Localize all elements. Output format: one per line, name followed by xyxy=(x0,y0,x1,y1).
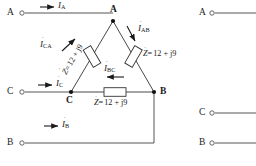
impedance-equals-ab: = xyxy=(148,49,153,58)
current-label-iab: I˙AB xyxy=(138,24,150,33)
terminal-dot-right-a xyxy=(210,11,214,15)
current-subscript-ia: A xyxy=(61,3,65,10)
node-dot-a xyxy=(111,19,115,23)
current-label-ic: I˙C xyxy=(56,79,63,88)
node-dot-b xyxy=(152,90,156,94)
impedance-label-ab: Z˙=12 + j9 xyxy=(143,50,176,58)
overdot-ic: ˙ xyxy=(58,75,60,82)
impedance-value-bc: 12 + j9 xyxy=(104,98,127,107)
current-label-ibc: I˙BC xyxy=(104,64,115,73)
terminal-label-left-c: C xyxy=(7,87,13,97)
terminal-label-right-a: A xyxy=(199,8,206,18)
terminal-dot-right-c xyxy=(210,111,214,115)
overdot-iab: ˙ xyxy=(140,20,142,27)
terminal-dot-left-c xyxy=(20,90,24,94)
terminal-label-left-b: B xyxy=(7,138,13,148)
circuit-schematic-svg xyxy=(0,0,256,166)
impedance-label-bc: Z˙=12 + j9 xyxy=(94,99,127,107)
right-lead-wires xyxy=(215,13,256,143)
impedance-equals-bc: = xyxy=(99,98,104,107)
impedance-box-bc xyxy=(104,88,126,97)
current-label-ib: I˙B xyxy=(62,120,69,129)
terminal-label-left-a: A xyxy=(7,8,14,18)
terminal-dot-right-b xyxy=(210,141,214,145)
impedance-value-ab: 12 + j9 xyxy=(153,49,176,58)
right-terminal-dots xyxy=(210,11,214,145)
node-label-a: A xyxy=(110,5,117,15)
node-label-c: C xyxy=(66,96,73,106)
node-dot-c xyxy=(69,90,73,94)
overdot-ica: ˙ xyxy=(42,36,44,43)
current-label-ica: I˙CA xyxy=(40,40,52,49)
terminal-label-right-b: B xyxy=(199,138,205,148)
terminal-dot-left-b xyxy=(20,141,24,145)
current-subscript-ica: CA xyxy=(43,42,52,49)
arrow-iab xyxy=(127,26,135,41)
circuit-diagram: A C B A C B A B C I˙A I˙C I˙B I˙CA I˙AB … xyxy=(0,0,256,166)
current-subscript-ic: C xyxy=(59,81,63,88)
left-terminal-dots xyxy=(20,11,24,145)
impedance-box-ab xyxy=(125,46,142,68)
terminal-dot-left-a xyxy=(20,11,24,15)
overdot-ib: ˙ xyxy=(64,116,66,123)
node-label-b: B xyxy=(160,87,166,97)
overdot-z-ab: ˙ xyxy=(144,46,146,53)
current-label-ia: I˙A xyxy=(58,1,65,10)
overdot-z-bc: ˙ xyxy=(95,95,97,102)
current-subscript-ibc: BC xyxy=(107,66,115,73)
current-subscript-iab: AB xyxy=(141,26,150,33)
current-subscript-ib: B xyxy=(65,122,69,129)
terminal-label-right-c: C xyxy=(199,108,205,118)
lead-wires xyxy=(25,13,154,143)
impedance-box-ca xyxy=(83,46,101,68)
overdot-ibc: ˙ xyxy=(106,60,108,67)
overdot-ia: ˙ xyxy=(60,0,62,4)
